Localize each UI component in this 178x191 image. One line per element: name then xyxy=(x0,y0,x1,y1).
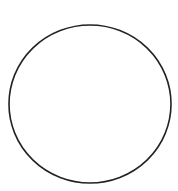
diagram-canvas xyxy=(0,0,178,191)
background xyxy=(0,0,178,191)
